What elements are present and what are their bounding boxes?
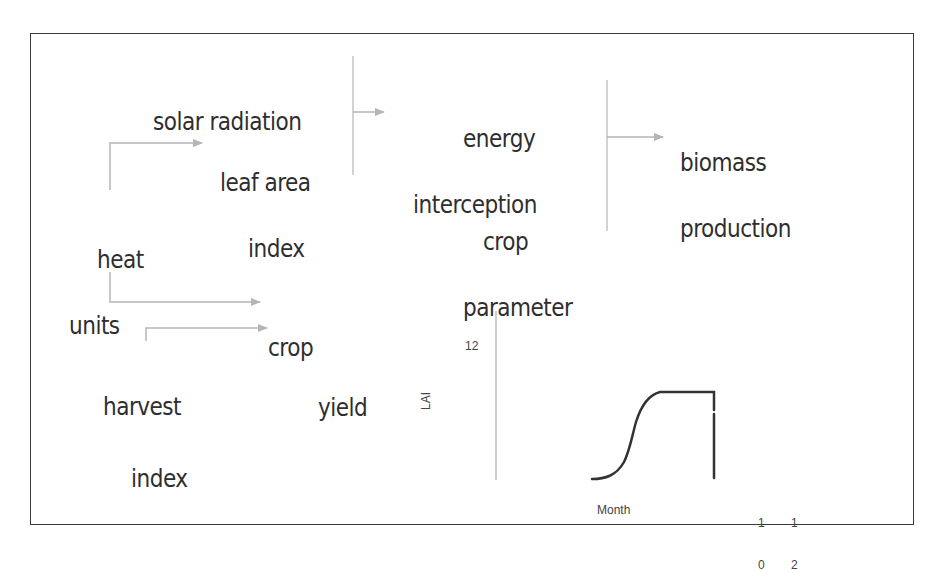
lai-x-tick-10: 1 0 [758, 488, 765, 573]
arrow-harvest-to-yield [146, 328, 267, 341]
node-crop-yield: crop yield [268, 293, 367, 441]
node-biomass-production: biomass production [680, 108, 791, 262]
lai-y-label: LAI [419, 392, 433, 410]
node-heat-units: heat units [69, 205, 144, 359]
lai-y-tick: 12 [465, 339, 478, 353]
node-leaf-area-index: leaf area index [220, 128, 311, 282]
node-harvest-index: harvest index [103, 352, 188, 512]
node-crop-parameter: crop parameter [463, 187, 573, 341]
lai-curve [592, 392, 714, 479]
lai-x-label: Month [597, 503, 630, 517]
lai-x-tick-12: 1 2 [791, 488, 798, 573]
